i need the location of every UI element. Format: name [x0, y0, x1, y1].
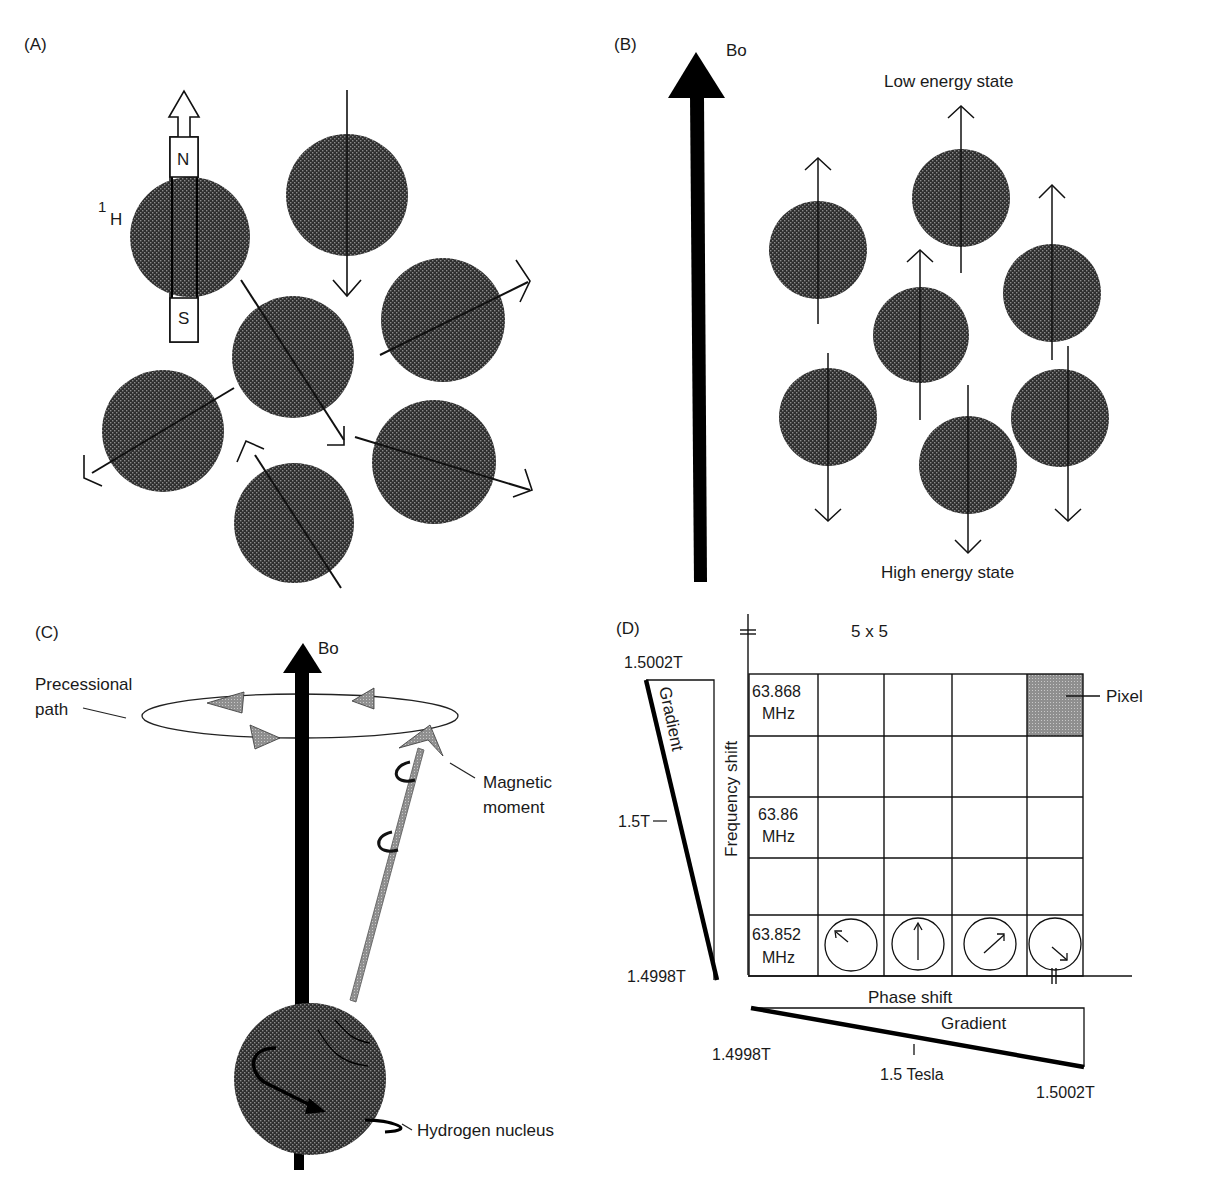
south-pole-label: S [178, 309, 189, 328]
path-arrow-left-icon [352, 688, 374, 709]
horizontal-gradient-right: 1.5002T [1036, 1084, 1095, 1101]
nucleus-4 [381, 258, 505, 382]
vertical-gradient-top: 1.5002T [624, 654, 683, 671]
north-arrow-icon [169, 91, 199, 137]
arrowhead-icon [516, 260, 530, 302]
arrowhead-icon [237, 441, 264, 462]
c-b0-label: Bo [318, 639, 339, 658]
nucleus-3 [232, 296, 354, 418]
grid-title: 5 x 5 [851, 622, 888, 641]
horizontal-gradient-label: Gradient [941, 1014, 1006, 1033]
panel-b-label: (B) [614, 35, 637, 54]
nucleus-down [1011, 369, 1109, 467]
horizontal-gradient-middle: 1.5 Tesla [880, 1066, 944, 1083]
row-label-bottom-unit: MHz [762, 949, 795, 966]
path-arrow-right-icon [250, 725, 280, 749]
magnetic-moment-label-1: Magnetic [483, 773, 552, 792]
phase-circle [1029, 918, 1081, 970]
nucleus-up [873, 287, 969, 383]
arrowhead-icon [84, 455, 102, 486]
row-label-mid-unit: MHz [762, 828, 795, 845]
vertical-gradient-middle: 1.5T [618, 813, 650, 830]
b0-field-arrow-icon [668, 52, 725, 582]
nucleus-6 [234, 463, 354, 583]
nucleus-1 [130, 177, 250, 297]
isotope-symbol: H [110, 210, 122, 229]
panel-c-label: (C) [35, 623, 59, 642]
row-label-top-value: 63.868 [752, 683, 801, 700]
highlighted-pixel [1027, 674, 1083, 736]
nucleus-7 [372, 400, 496, 524]
arrowhead-icon [513, 469, 532, 497]
horizontal-gradient-left: 1.4998T [712, 1046, 771, 1063]
pixel-label: Pixel [1106, 687, 1143, 706]
phase-circle [964, 918, 1016, 970]
horizontal-gradient: Gradient 1.4998T 1.5 Tesla 1.5002T [712, 1008, 1095, 1101]
panel-c: (C) Bo Precessional path Magnetic [35, 623, 554, 1170]
panel-a-label: (A) [24, 35, 47, 54]
vertical-gradient-bottom: 1.4998T [627, 968, 686, 985]
high-energy-label: High energy state [881, 563, 1014, 582]
panel-d: (D) 5 x 5 63.868 MHz 63.86 MHz 63.852 M [616, 614, 1143, 1101]
precessional-label-2: path [35, 700, 68, 719]
isotope-superscript: 1 [98, 198, 106, 215]
row-label-mid-value: 63.86 [758, 806, 798, 823]
frequency-shift-label: Frequency shift [722, 741, 741, 857]
row-label-top-unit: MHz [762, 705, 795, 722]
vertical-gradient: Gradient 1.5002T 1.5T 1.4998T [618, 654, 717, 985]
low-energy-label: Low energy state [884, 72, 1013, 91]
hydrogen-nucleus [234, 1003, 386, 1155]
panel-b: (B) Bo Low energy state High energy stat… [614, 35, 1109, 582]
panel-d-label: (D) [616, 619, 640, 638]
panel-a: (A) N S 1 H [24, 35, 532, 588]
phase-circle [825, 919, 877, 971]
row-label-bottom-value: 63.852 [752, 926, 801, 943]
magnetic-moment-label-2: moment [483, 798, 545, 817]
magnetic-moment-arrow-icon [350, 725, 443, 1002]
phase-indicators [825, 918, 1081, 971]
b0-label: Bo [726, 41, 747, 60]
path-arrow-left-icon [207, 692, 244, 713]
north-pole-label: N [177, 150, 189, 169]
precessional-label-1: Precessional [35, 675, 132, 694]
hydrogen-nucleus-label: Hydrogen nucleus [417, 1121, 554, 1140]
phase-shift-label: Phase shift [868, 988, 952, 1007]
